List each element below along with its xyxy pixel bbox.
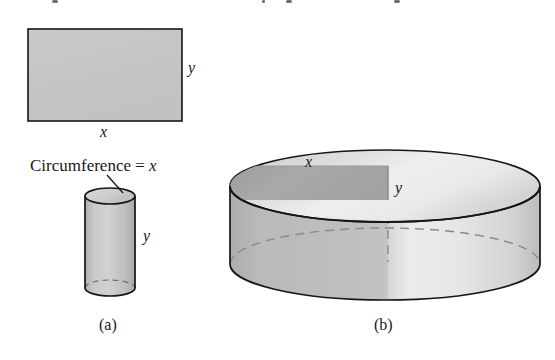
disk-shape — [224, 150, 540, 306]
rectangle-width-label: x — [100, 124, 107, 140]
circumference-annotation-variable: x — [149, 156, 157, 175]
flat-rectangle-shape — [28, 29, 182, 121]
rectangle-height-label: y — [188, 60, 195, 76]
disk-height-label: y — [395, 180, 402, 196]
circumference-annotation-text: Circumference = — [30, 156, 149, 175]
panel-caption-b: (b) — [374, 317, 393, 333]
cylinder-height-label: y — [143, 228, 150, 244]
disk-inset-rectangle — [224, 166, 388, 200]
figure-container: y x Circumference = x y (a) x y (b) — [0, 0, 555, 360]
figure-svg — [0, 0, 555, 360]
circumference-annotation: Circumference = x — [30, 157, 157, 174]
small-cylinder-shape — [85, 188, 135, 296]
panel-caption-a: (a) — [99, 317, 117, 333]
disk-width-label: x — [305, 154, 312, 170]
